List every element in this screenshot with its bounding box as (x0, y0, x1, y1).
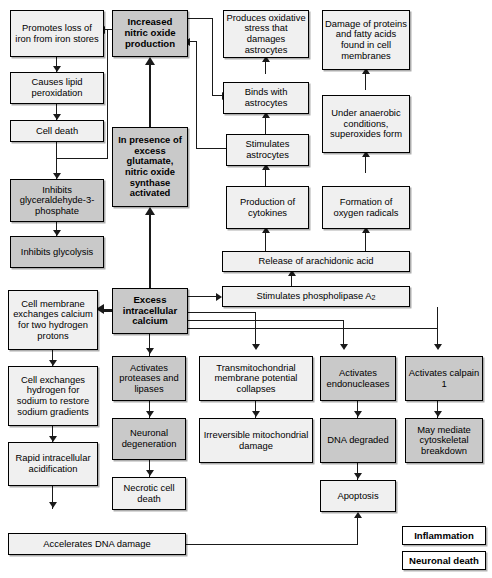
node-rapid-intracellular-acidification: Rapid intracellular acidification (8, 442, 98, 486)
connector-line (188, 18, 213, 19)
arrowhead (145, 57, 155, 65)
node-activates-endonucleases: Activates endonucleases (320, 356, 396, 401)
node-inhibits-glycolysis: Inhibits glycolysis (10, 236, 104, 268)
connector-line-thick (149, 65, 152, 127)
node-apoptosis: Apoptosis (320, 480, 396, 512)
arrowhead (354, 512, 362, 518)
connector-line (188, 312, 256, 313)
node-cell-death: Cell death (10, 120, 104, 142)
node-in-presence-excess-glutamate: In presence of excess glutamate, nitric … (112, 127, 188, 207)
node-neuronal-degeneration: Neuronal degeneration (112, 418, 186, 460)
node-formation-of-oxygen-radicals: Formation of oxygen radicals (322, 186, 410, 229)
arrowhead (145, 207, 155, 215)
node-increased-nitric-oxide-production: Increased nitric oxide production (112, 10, 188, 57)
connector-line (188, 320, 344, 321)
connector-line (255, 312, 256, 348)
arrowhead (434, 411, 442, 417)
node-binds-with-astrocytes: Binds with astrocytes (223, 82, 309, 114)
node-under-anaerobic-conditions: Under anaerobic conditions, superoxides … (322, 95, 410, 153)
node-transmitochondrial-membrane-potential: Transmitochondrial membrane potential co… (199, 356, 313, 401)
node-stimulates-phospholipase-a2: Stimulates phospholipase A2 (222, 286, 410, 307)
node-may-mediate-cytoskeletal-breakdown: May mediate cytoskeletal breakdown (405, 418, 483, 463)
node-stimulates-astrocytes: Stimulates astrocytes (226, 134, 309, 166)
node-produces-oxidative-stress: Produces oxidative stress that damages a… (223, 10, 309, 58)
connector-line (212, 18, 213, 96)
node-excess-intracellular-calcium: Excess intracellular calcium (112, 288, 188, 334)
connector-line (196, 148, 226, 149)
arrowhead (252, 411, 260, 417)
node-production-of-cytokines: Production of cytokines (226, 186, 309, 229)
pla2-label: Stimulates phospholipase A (256, 291, 371, 302)
node-cell-exchanges-hydrogen: Cell exchanges hydrogen for sodium to re… (8, 366, 98, 426)
flowchart-diagram: Promotes loss of iron from iron stores C… (0, 0, 492, 578)
node-damage-of-proteins: Damage of proteins and fatty acids found… (322, 10, 410, 70)
arrowhead (252, 344, 260, 350)
node-causes-lipid-peroxidation: Causes lipid peroxidation (10, 72, 104, 104)
node-irreversible-mitochondrial-damage: Irreversible mitochondrial damage (199, 418, 313, 463)
arrowhead (146, 411, 154, 417)
connector-line-thick (149, 215, 152, 288)
connector-line (196, 41, 197, 149)
node-activates-calpain-1: Activates calpain 1 (405, 356, 483, 401)
pla2-subscript: 2 (372, 294, 376, 302)
node-accelerates-dna-damage: Accelerates DNA damage (8, 533, 186, 555)
arrowhead (146, 470, 154, 476)
node-dna-degraded: DNA degraded (320, 418, 396, 463)
node-promotes-loss-iron: Promotes loss of iron from iron stores (10, 10, 104, 57)
connector-line (188, 328, 438, 329)
connector-line (107, 30, 108, 159)
connector-line (437, 307, 438, 348)
legend-inflammation: Inflammation (402, 526, 486, 545)
arrowhead (340, 344, 348, 350)
connector-line (56, 158, 108, 159)
arrowhead (434, 344, 442, 350)
legend-neuronal-death: Neuronal death (402, 551, 486, 570)
connector-line (357, 518, 358, 545)
connector-line (186, 544, 358, 545)
arrowhead (146, 348, 154, 354)
node-release-of-arachidonic-acid: Release of arachidonic acid (222, 251, 410, 272)
node-necrotic-cell-death: Necrotic cell death (112, 477, 186, 510)
node-inhibits-glyceraldehyde-3-phosphate: Inhibits glyceraldehyde-3-phosphate (10, 179, 104, 222)
node-activates-proteases-and-lipases: Activates proteases and lipases (112, 356, 186, 401)
node-cell-membrane-exchanges-calcium: Cell membrane exchanges calcium for two … (8, 290, 98, 350)
arrowhead (354, 473, 362, 479)
arrowhead (49, 502, 57, 508)
arrowhead (354, 411, 362, 417)
